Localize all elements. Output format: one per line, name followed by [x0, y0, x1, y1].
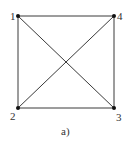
complete-graph-k4: 1 2 3 4 a): [0, 0, 131, 146]
node-1: [16, 14, 20, 18]
node-4: [112, 14, 116, 18]
node-label-2: 2: [10, 110, 16, 122]
node-2: [16, 106, 20, 110]
diagram-caption: a): [61, 125, 70, 138]
node-label-1: 1: [10, 10, 16, 22]
node-label-4: 4: [117, 10, 123, 22]
node-3: [112, 106, 116, 110]
node-label-3: 3: [116, 111, 122, 123]
edges: [18, 16, 114, 108]
